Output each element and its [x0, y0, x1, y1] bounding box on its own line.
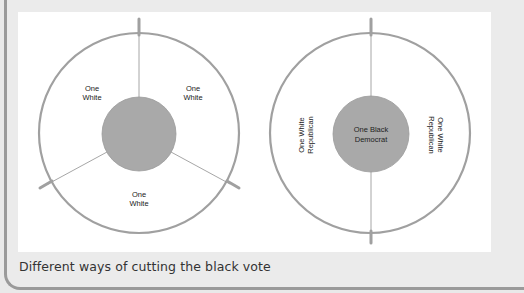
right-segment-right-label-line1: One White — [436, 117, 445, 152]
left-segment-3-label-line1: One — [132, 190, 146, 199]
left-segment-2-label-line1: One — [186, 84, 200, 93]
left-district-diagram: One White One White One White — [39, 19, 239, 233]
right-inner-label-line2: Democrat — [355, 135, 388, 144]
figure-caption: Different ways of cutting the black vote — [19, 259, 271, 274]
left-segment-3-label-line2: White — [129, 199, 148, 208]
left-segment-1-label-line2: White — [82, 93, 101, 102]
left-stub-lower-right — [227, 181, 239, 188]
left-inner-circle — [102, 97, 176, 171]
right-inner-label-line1: One Black — [354, 125, 389, 134]
left-segment-1-label-line1: One — [85, 84, 99, 93]
right-segment-right-label-line2: Republican — [427, 116, 436, 154]
left-segment-2-label-line2: White — [183, 93, 202, 102]
right-segment-left-label-line2: Republican — [306, 116, 315, 154]
right-segment-left-label-line1: One White — [297, 117, 306, 152]
right-inner-circle — [333, 96, 409, 172]
right-district-diagram: One Black Democrat One White Republican … — [270, 19, 470, 243]
left-stub-lower-left — [40, 181, 52, 188]
